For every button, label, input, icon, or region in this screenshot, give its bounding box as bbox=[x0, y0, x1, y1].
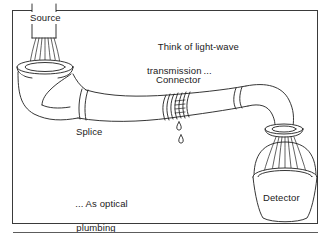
caption-transmission: Think of light-wave transmission ... bbox=[147, 29, 239, 100]
caption-plumbing-line1: ... As optical bbox=[75, 198, 128, 209]
figure-root: Source Think of light-wave transmission … bbox=[0, 0, 331, 240]
bottom-divider bbox=[13, 232, 318, 233]
splice-label: Splice bbox=[76, 126, 102, 138]
connector-label: Connector bbox=[156, 74, 201, 86]
caption-transmission-line1: Think of light-wave bbox=[158, 41, 239, 52]
detector-label: Detector bbox=[263, 192, 300, 204]
source-label: Source bbox=[29, 12, 62, 24]
